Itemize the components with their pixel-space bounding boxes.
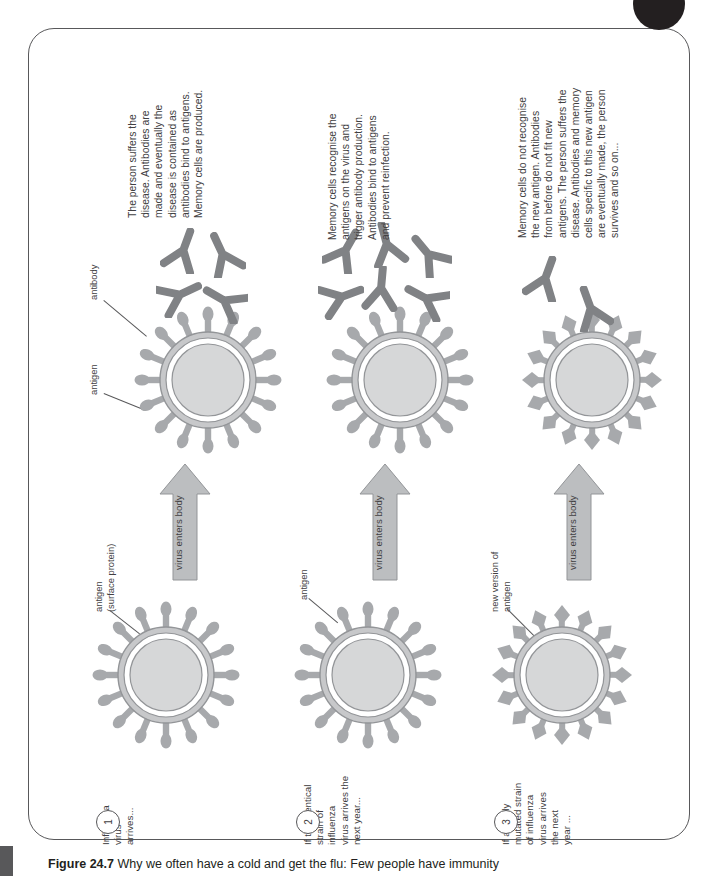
figure-caption: Figure 24.7 Why we often have a cold and…	[48, 857, 499, 871]
chapter-badge-icon	[633, 0, 685, 30]
figure-caption-text: Why we often have a cold and get the flu…	[117, 857, 498, 871]
stage-3-antibody-1	[522, 256, 568, 306]
stage-1-antibody-4	[202, 278, 248, 328]
stage-1-number: 1	[96, 810, 120, 834]
figure-number: Figure 24.7	[48, 857, 114, 871]
stage-1-arrow	[158, 462, 212, 586]
stage-2-number: 2	[296, 810, 320, 834]
stage-3-antibody-2	[568, 286, 614, 336]
page-edge-tab	[0, 846, 13, 876]
stage-1-description: The person suffers the disease. Antibodi…	[126, 43, 205, 218]
stage-2-antibody-6	[404, 276, 450, 326]
stage-3-arrow-label: virus enters body	[567, 495, 578, 570]
stage-2-infected-virus-particle	[320, 300, 480, 460]
stage-3-number: 3	[494, 810, 518, 834]
stage-3-virus-particle	[482, 595, 642, 755]
stage-2-arrow	[358, 462, 412, 586]
stage-1-right-antigen-label: antigen	[88, 364, 100, 395]
stage-2-antibody-3	[406, 232, 452, 282]
stage-3-arrow	[552, 462, 606, 586]
stage-1-antibody-label: antibody	[88, 265, 100, 300]
stage-3-description: Memory cells do not recognise the new an…	[516, 38, 622, 238]
stage-2-virus-particle	[288, 595, 448, 755]
stage-2-arrow-label: virus enters body	[373, 495, 384, 570]
stage-2-description: Memory cells recognise the antigens on t…	[326, 65, 392, 240]
stage-1-arrow-label: virus enters body	[173, 495, 184, 570]
stage-1-virus-particle	[86, 595, 246, 755]
stage-1-antibody-2	[200, 232, 246, 282]
stage-2-antibody-5	[358, 266, 404, 316]
stage-1-antibody-3	[156, 272, 202, 322]
